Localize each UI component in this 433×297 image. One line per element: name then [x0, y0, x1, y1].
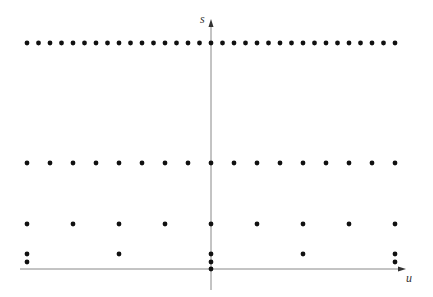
lattice-dot [266, 41, 271, 46]
lattice-dot [301, 222, 306, 227]
lattice-dot [25, 41, 30, 46]
lattice-dot [370, 41, 375, 46]
lattice-dot [117, 41, 122, 46]
lattice-dot [255, 41, 260, 46]
lattice-dot [209, 161, 214, 166]
lattice-dot [312, 41, 317, 46]
lattice-dot [278, 161, 283, 166]
vertical-axis-label: s [200, 12, 205, 26]
lattice-dot [370, 161, 375, 166]
lattice-dot [71, 161, 76, 166]
lattice-dot [209, 252, 214, 257]
lattice-dot [335, 41, 340, 46]
row-3 [25, 222, 398, 227]
lattice-dot [209, 267, 214, 272]
lattice-dot [105, 41, 110, 46]
lattice-dot [301, 161, 306, 166]
lattice-dot [25, 252, 30, 257]
lattice-dot [25, 222, 30, 227]
horizontal-axis-label: u [406, 271, 412, 285]
lattice-dot [94, 161, 99, 166]
vertical-axis-arrow-icon [209, 19, 214, 27]
lattice-dot [197, 41, 202, 46]
row-4 [25, 252, 398, 257]
lattice-dot [48, 41, 53, 46]
lattice-dot [232, 41, 237, 46]
lattice-dot [209, 41, 214, 46]
lattice-dot [301, 252, 306, 257]
lattice-dot [289, 41, 294, 46]
lattice-dot [117, 161, 122, 166]
lattice-dot [255, 161, 260, 166]
lattice-dot [278, 41, 283, 46]
row-2 [25, 161, 398, 166]
horizontal-axis-arrow-icon [398, 267, 406, 272]
lattice-dot [186, 41, 191, 46]
lattice-dot [151, 41, 156, 46]
axes: s u [20, 12, 412, 290]
lattice-dot [163, 41, 168, 46]
lattice-dot [48, 161, 53, 166]
lattice-dot [117, 222, 122, 227]
lattice-dot [243, 41, 248, 46]
lattice-dot [358, 41, 363, 46]
lattice-dot [232, 161, 237, 166]
lattice-dot [117, 252, 122, 257]
lattice-dot [163, 161, 168, 166]
lattice-dot [36, 41, 41, 46]
lattice-dot [381, 41, 386, 46]
lattice-dot [220, 41, 225, 46]
lattice-dot [393, 222, 398, 227]
lattice-dot [324, 41, 329, 46]
lattice-dot [209, 222, 214, 227]
lattice-dot [393, 252, 398, 257]
lattice-dot [324, 161, 329, 166]
lattice-dot [393, 41, 398, 46]
row-6 [209, 267, 214, 272]
lattice-dot [128, 41, 133, 46]
row-1 [25, 41, 398, 46]
lattice-dot [59, 41, 64, 46]
lattice-dot [393, 161, 398, 166]
lattice-dot [25, 260, 30, 265]
lattice-dot [186, 161, 191, 166]
lattice-dot [71, 222, 76, 227]
lattice-diagram: s u [0, 0, 433, 297]
lattice-dot [174, 41, 179, 46]
lattice-dot [393, 260, 398, 265]
lattice-dot [25, 161, 30, 166]
lattice-dot [347, 222, 352, 227]
lattice-dot [82, 41, 87, 46]
lattice-dot [71, 41, 76, 46]
lattice-dot [94, 41, 99, 46]
lattice-dot [347, 41, 352, 46]
lattice-dot [140, 161, 145, 166]
lattice-dot [140, 41, 145, 46]
lattice-dot [255, 222, 260, 227]
lattice-dot [347, 161, 352, 166]
lattice-dot [209, 260, 214, 265]
lattice-dot [163, 222, 168, 227]
row-5 [25, 260, 398, 265]
lattice-dot [301, 41, 306, 46]
